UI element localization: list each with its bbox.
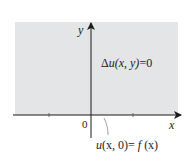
laplace-half-plane-diagram: y x 0 Δu(x, y)=0 u(x, 0)= f (x) [0, 0, 195, 154]
boundary-leader-line [104, 118, 108, 135]
y-axis-label: y [77, 23, 84, 37]
half-plane-region [15, 22, 178, 115]
laplace-equation: Δu(x, y)=0 [101, 56, 152, 70]
origin-label: 0 [82, 118, 88, 130]
boundary-condition: u(x, 0)= f (x) [96, 138, 158, 152]
x-axis-label: x [168, 118, 175, 132]
